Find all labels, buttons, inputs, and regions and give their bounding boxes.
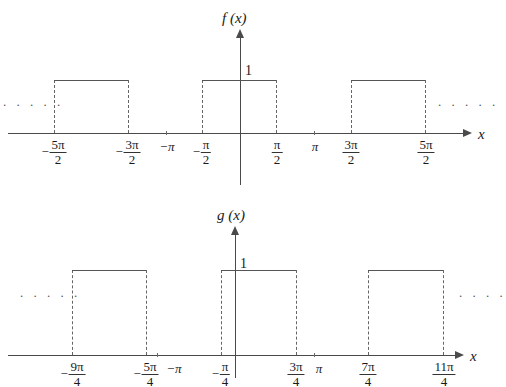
tick-denominator: 4 <box>68 375 85 387</box>
tick-label-g-4: 3π4 <box>287 360 304 387</box>
tick-sign: − <box>193 145 201 159</box>
tick-fraction: 3π2 <box>342 138 359 166</box>
chart-g: g (x) x 1 . . . . . . . . . −9π4 −5π4 −π… <box>0 200 500 387</box>
tick-fraction: 11π4 <box>432 360 455 387</box>
tick-fraction: π4 <box>220 360 231 387</box>
tick-denominator: 2 <box>49 153 66 167</box>
pulse-top <box>351 80 425 81</box>
pulse-top <box>368 270 443 271</box>
tick-label-f-0: −5π2 <box>42 138 67 166</box>
tick-numerator: 5π <box>417 138 434 153</box>
tick-label-f-5: π <box>312 140 319 154</box>
tick-label-f-1: −3π2 <box>116 138 141 166</box>
tick-denominator: 4 <box>287 375 304 387</box>
tick-numerator: 7π <box>359 360 376 375</box>
tick-denominator: 2 <box>342 153 359 167</box>
tick-text: −π <box>159 139 174 154</box>
y-axis-f <box>240 38 241 185</box>
tick-pi-f <box>314 131 315 135</box>
tick-denominator: 4 <box>220 375 231 387</box>
x-axis-f <box>8 133 466 134</box>
tick-denominator: 2 <box>201 153 212 167</box>
tick-denominator: 2 <box>417 153 434 167</box>
tick-sign: − <box>116 145 124 159</box>
tick-numerator: π <box>220 360 231 375</box>
tick-fraction: 5π2 <box>49 138 66 166</box>
tick-label-g-6: 7π4 <box>359 360 376 387</box>
tick-numerator: 9π <box>68 360 85 375</box>
right-ellipsis-g: . . . . <box>459 285 506 301</box>
amplitude-label-f: 1 <box>245 63 252 79</box>
right-ellipsis-f: . . . . . <box>438 94 499 110</box>
tick-label-f-4: π2 <box>272 138 283 166</box>
tick-denominator: 4 <box>141 375 158 387</box>
pulse-top <box>72 270 146 271</box>
y-axis-arrow-f <box>236 29 244 38</box>
pulse-edge-right <box>443 270 444 355</box>
tick-sign: − <box>61 367 69 381</box>
x-axis-label-f: x <box>478 126 485 143</box>
tick-denominator: 4 <box>359 375 376 387</box>
tick-fraction: 9π4 <box>68 360 85 387</box>
tick-neg-pi-g <box>157 353 158 357</box>
left-ellipsis-g: . . . . . <box>20 285 81 301</box>
tick-numerator: 11π <box>432 360 455 375</box>
tick-numerator: π <box>201 138 212 153</box>
tick-fraction: π2 <box>201 138 212 166</box>
tick-sign: − <box>134 367 142 381</box>
tick-fraction: 7π4 <box>359 360 376 387</box>
x-axis-g <box>8 355 458 356</box>
tick-label-f-7: 5π2 <box>417 138 434 166</box>
pulse-edge-right <box>146 270 147 355</box>
pulse-edge-right <box>128 80 129 133</box>
pulse-edge-left <box>72 270 73 355</box>
tick-sign: − <box>212 367 220 381</box>
pulse-edge-left <box>202 80 203 133</box>
x-axis-arrow-f <box>463 129 472 137</box>
y-axis-label-g: g (x) <box>217 207 245 224</box>
tick-label-g-7: 11π4 <box>432 360 455 387</box>
tick-fraction: 5π4 <box>141 360 158 387</box>
tick-label-g-3: −π4 <box>212 360 230 387</box>
tick-label-f-6: 3π2 <box>342 138 359 166</box>
y-axis-label-f: f (x) <box>222 10 247 27</box>
x-axis-label-g: x <box>470 348 477 365</box>
tick-label-g-5: π <box>316 362 323 376</box>
tick-numerator: 5π <box>141 360 158 375</box>
tick-numerator: 5π <box>49 138 66 153</box>
x-axis-arrow-g <box>455 351 464 359</box>
tick-numerator: π <box>272 138 283 153</box>
pulse-edge-left <box>351 80 352 133</box>
tick-fraction: π2 <box>272 138 283 166</box>
pulse-edge-left <box>221 270 222 355</box>
pulse-edge-right <box>276 80 277 133</box>
y-axis-g <box>235 235 236 378</box>
tick-text: π <box>316 361 323 376</box>
tick-numerator: 3π <box>123 138 140 153</box>
tick-label-f-3: −π2 <box>193 138 211 166</box>
y-axis-arrow-g <box>231 226 239 235</box>
pulse-top <box>202 80 276 81</box>
tick-pi-g <box>314 353 315 357</box>
pulse-edge-right <box>296 270 297 355</box>
tick-fraction: 5π2 <box>417 138 434 166</box>
tick-numerator: 3π <box>342 138 359 153</box>
tick-denominator: 4 <box>432 375 455 387</box>
tick-text: π <box>312 139 319 154</box>
pulse-edge-right <box>425 80 426 133</box>
pulse-edge-left <box>368 270 369 355</box>
tick-label-f-2: −π <box>159 140 174 154</box>
chart-f: f (x) x 1 . . . . . . . . . . −5π2 −3π2 … <box>0 0 500 200</box>
tick-numerator: 3π <box>287 360 304 375</box>
tick-text: −π <box>166 361 181 376</box>
tick-fraction: 3π2 <box>123 138 140 166</box>
tick-neg-pi-f <box>166 131 167 135</box>
tick-fraction: 3π4 <box>287 360 304 387</box>
tick-denominator: 2 <box>123 153 140 167</box>
pulse-top <box>54 80 128 81</box>
tick-denominator: 2 <box>272 153 283 167</box>
tick-label-g-0: −9π4 <box>61 360 86 387</box>
pulse-top <box>221 270 296 271</box>
left-ellipsis-f: . . . . . <box>3 94 64 110</box>
tick-sign: − <box>42 145 50 159</box>
